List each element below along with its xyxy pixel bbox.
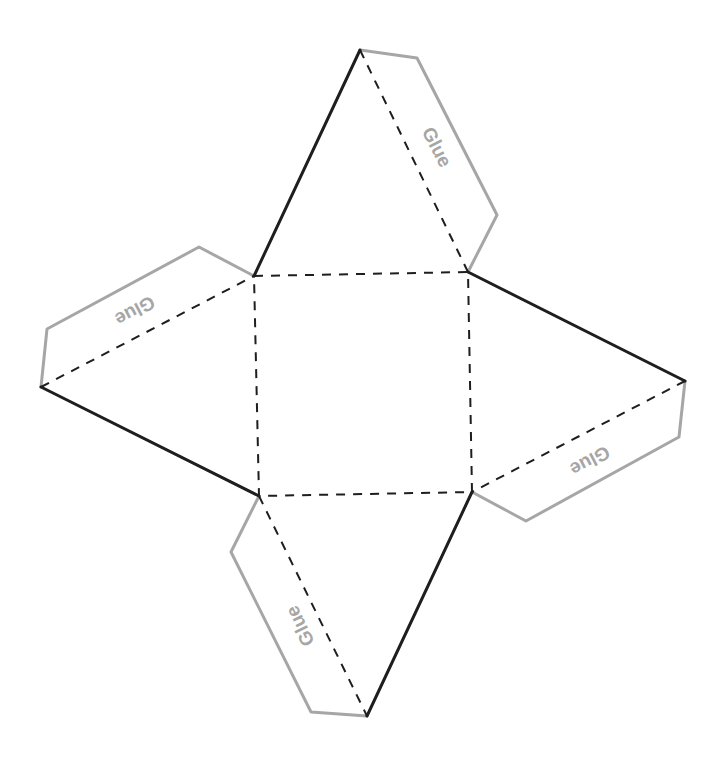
glue-flap-top <box>360 50 497 272</box>
glue-label-bottom: Glue <box>281 602 318 649</box>
glue-label-top: Glue <box>418 123 456 170</box>
glue-labels: Glue Glue Glue Glue <box>111 123 613 649</box>
glue-flap-right <box>472 381 685 521</box>
cut-left-triangle-edge <box>41 387 259 496</box>
cut-right-triangle-edge <box>468 272 685 381</box>
cut-bottom-triangle-edge <box>367 492 472 716</box>
cut-top-triangle-edge <box>254 50 360 276</box>
base-square-fold <box>254 272 472 496</box>
fold-lines <box>41 50 685 716</box>
cut-lines <box>41 50 685 716</box>
fold-bottom-flap <box>259 496 367 716</box>
pyramid-net-diagram: Glue Glue Glue Glue <box>0 0 721 762</box>
glue-flaps <box>41 50 685 716</box>
glue-label-left: Glue <box>111 292 158 330</box>
glue-label-right: Glue <box>566 442 613 480</box>
